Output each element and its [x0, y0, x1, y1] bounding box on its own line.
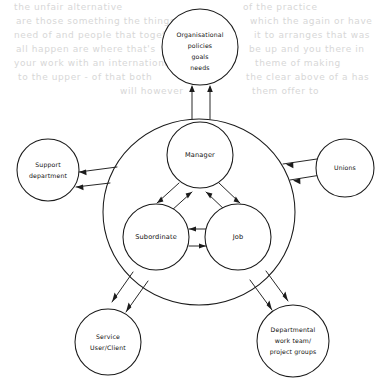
- manager-label: Manager: [185, 151, 215, 159]
- bleed-text-line: are those something the things: [16, 16, 175, 26]
- bleed-text-line: the unfair alternative: [14, 2, 123, 12]
- arrow-head-left-lower: [76, 184, 84, 190]
- service-user-client-label-line-2: User/Client: [90, 344, 126, 351]
- arrow-head-up-right: [207, 85, 213, 92]
- support-department-label-line-1: Support: [35, 161, 61, 169]
- bleed-text-line: them offer to: [252, 86, 319, 96]
- node-organisational[interactable]: Organisational policies goals needs: [162, 9, 238, 85]
- node-job[interactable]: Job: [205, 204, 271, 270]
- bleed-text-line: which the again or have: [250, 16, 372, 26]
- subordinate-label: Subordinate: [135, 233, 177, 241]
- node-subordinate[interactable]: Subordinate: [123, 204, 189, 270]
- bleed-text-line: will however: [120, 86, 184, 96]
- node-service-user-client[interactable]: Service User/Client: [75, 309, 141, 375]
- bleed-text-line: all happen are where that's: [16, 44, 156, 54]
- organisational-label-line-4: needs: [190, 64, 209, 71]
- bleed-text-line: the clear above of a has: [246, 72, 369, 82]
- connector-core-to-organisational: [189, 85, 213, 119]
- connector-core-to-unions: [283, 159, 321, 184]
- node-manager[interactable]: Manager: [167, 122, 233, 188]
- organisational-systems-diagram: the unfair alternativeare those somethin…: [0, 0, 388, 391]
- bleed-text-line: of the practice: [243, 2, 318, 12]
- node-unions[interactable]: Unions: [316, 139, 374, 197]
- service-user-client-circle[interactable]: [75, 309, 141, 375]
- arrow-head-down-left-outer: [126, 303, 131, 312]
- organisational-label-line-2: policies: [188, 42, 213, 50]
- arrow-head-to-subordinate-horizontal: [189, 226, 196, 231]
- link-subordinate-job: [189, 226, 206, 248]
- departmental-label-line-3: project groups: [270, 348, 317, 356]
- arrow-head-up-left: [189, 85, 195, 92]
- arrow-head-down-left-inner: [112, 293, 117, 302]
- service-user-client-label-line-1: Service: [96, 333, 120, 340]
- bleed-text-line: it to arranges that was: [254, 30, 370, 40]
- connector-core-to-service-user: [112, 272, 148, 312]
- bleed-text-line: your work with an international: [14, 58, 174, 68]
- support-department-label-line-2: department: [29, 172, 68, 180]
- departmental-label-line-1: Departmental: [271, 326, 316, 334]
- bleed-text-line: be up and you there in: [249, 44, 365, 54]
- connector-core-to-support-department: [76, 167, 117, 190]
- unions-label: Unions: [334, 164, 356, 171]
- node-departmental-work-team[interactable]: Departmental work team/ project groups: [257, 305, 329, 377]
- arrow-head-to-job-horizontal: [199, 243, 206, 248]
- node-support-department[interactable]: Support department: [17, 139, 79, 201]
- organisational-label-line-3: goals: [191, 53, 208, 61]
- bleed-text-line: need of and people that together: [14, 30, 183, 40]
- bleed-text-line: theme of making: [255, 58, 341, 68]
- departmental-label-line-2: work team/: [275, 337, 312, 344]
- organisational-label-line-1: Organisational: [176, 31, 223, 39]
- connector-core-to-departmental: [250, 271, 288, 310]
- arrow-head-down-right-outer: [267, 301, 272, 310]
- bleed-text-line: to the upper - of that both: [18, 72, 152, 82]
- job-label: Job: [232, 233, 244, 241]
- support-department-circle[interactable]: [17, 139, 79, 201]
- arrow-head-down-right-inner: [283, 292, 288, 301]
- arrow-head-left-upper: [79, 169, 87, 175]
- diagram-canvas: the unfair alternativeare those somethin…: [0, 0, 388, 391]
